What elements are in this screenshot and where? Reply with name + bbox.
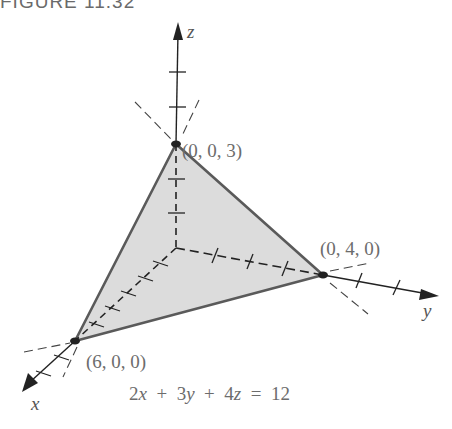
y-axis-label: y	[421, 300, 432, 321]
vertex-dot-x	[70, 338, 80, 345]
plane-diagram: z y x (0, 0, 3) (0, 4, 0) (6, 0, 0) 2x +…	[0, 0, 452, 429]
x-arrow-icon	[22, 373, 38, 392]
vertex-label-y: (0, 4, 0)	[320, 238, 380, 260]
z-arrow-icon	[173, 22, 183, 40]
vertex-label-x: (6, 0, 0)	[86, 351, 146, 373]
vertex-dot-z	[171, 141, 181, 148]
plane-triangle	[75, 144, 323, 341]
z-axis-label: z	[186, 21, 195, 42]
plane-equation: 2x + 3y + 4z = 12	[129, 383, 290, 404]
vertex-label-z: (0, 0, 3)	[182, 140, 242, 162]
x-axis-label: x	[30, 393, 40, 414]
vertex-dot-y	[318, 272, 328, 279]
y-arrow-icon	[419, 289, 439, 300]
